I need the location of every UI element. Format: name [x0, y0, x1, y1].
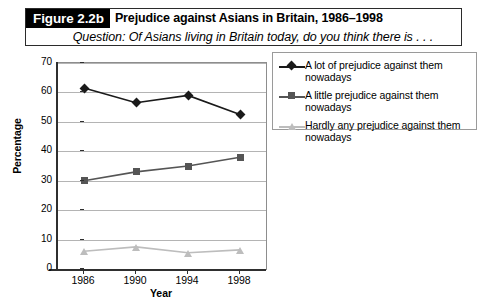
x-tick-mark [83, 270, 84, 274]
x-tick-label: 1986 [60, 274, 106, 286]
x-tick-label: 1990 [112, 274, 158, 286]
plot-area [57, 62, 267, 270]
legend-marker-icon [279, 121, 305, 133]
y-tick-mark [80, 150, 84, 151]
data-point [184, 250, 192, 257]
y-tick-label: 10 [30, 234, 52, 244]
y-tick-mark [80, 180, 84, 181]
data-point [133, 168, 140, 175]
y-tick-label: 60 [30, 86, 52, 96]
x-tick-label: 1994 [164, 274, 210, 286]
caption-title-row: Figure 2.2b Prejudice against Asians in … [26, 9, 461, 28]
y-axis-ticks: 010203040506070 [24, 52, 52, 300]
legend-label: Hardly any prejudice against them nowada… [305, 120, 471, 143]
chart-legend: A lot of prejudice against them nowadays… [272, 52, 477, 130]
legend-item[interactable]: Hardly any prejudice against them nowada… [279, 120, 471, 143]
figure-caption-box: Figure 2.2b Prejudice against Asians in … [25, 8, 462, 46]
legend-item[interactable]: A little prejudice against them nowadays [279, 90, 471, 113]
y-tick-mark [80, 121, 84, 122]
y-tick-mark [80, 268, 84, 269]
data-point [237, 154, 244, 161]
figure-title: Prejudice against Asians in Britain, 198… [110, 9, 383, 28]
series-line [84, 157, 240, 181]
y-tick-mark [80, 209, 84, 210]
figure-number-tag: Figure 2.2b [26, 9, 110, 28]
series-line [84, 247, 240, 253]
figure-question-text: Question: Of Asians living in Britain to… [73, 28, 433, 46]
legend-label: A little prejudice against them nowadays [305, 90, 471, 113]
data-point [236, 247, 244, 254]
x-axis-line [49, 269, 266, 271]
y-tick-mark [80, 239, 84, 240]
x-tick-label: 1998 [216, 274, 262, 286]
y-tick-label: 50 [30, 116, 52, 126]
y-axis-line [56, 62, 58, 269]
legend-marker-icon [279, 61, 305, 73]
series-lines [58, 63, 266, 269]
x-tick-mark [135, 270, 136, 274]
y-tick-mark [80, 62, 84, 63]
y-tick-label: 0 [30, 263, 52, 273]
data-point [81, 177, 88, 184]
x-axis-title: Year [57, 287, 265, 299]
caption-question-row: Question: Of Asians living in Britain to… [26, 28, 461, 46]
y-tick-label: 40 [30, 145, 52, 155]
y-tick-label: 30 [30, 175, 52, 185]
y-tick-label: 70 [30, 57, 52, 67]
legend-marker-icon [279, 91, 305, 103]
data-point [185, 163, 192, 170]
legend-item[interactable]: A lot of prejudice against them nowadays [279, 60, 471, 83]
y-tick-mark [80, 91, 84, 92]
x-tick-mark [187, 270, 188, 274]
data-point [80, 248, 88, 255]
y-tick-label: 20 [30, 204, 52, 214]
legend-label: A lot of prejudice against them nowadays [305, 60, 471, 83]
data-point [132, 244, 140, 251]
series-line [84, 88, 240, 115]
y-axis-title: Percentage [11, 101, 23, 191]
x-tick-mark [239, 270, 240, 274]
